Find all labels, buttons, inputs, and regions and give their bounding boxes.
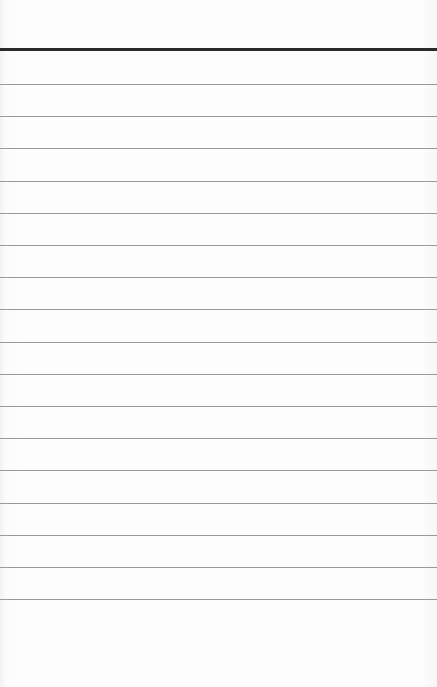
ruled-line (0, 374, 437, 375)
ruled-line (0, 535, 437, 536)
ruled-line (0, 406, 437, 407)
ruled-line (0, 116, 437, 117)
ruled-line (0, 470, 437, 471)
ruled-line (0, 309, 437, 310)
ruled-line (0, 438, 437, 439)
ruled-line (0, 503, 437, 504)
ruled-line (0, 213, 437, 214)
header-rule (0, 48, 437, 51)
ruled-line (0, 148, 437, 149)
ruled-line (0, 567, 437, 568)
ruled-line (0, 342, 437, 343)
lined-paper (0, 0, 437, 687)
ruled-line (0, 245, 437, 246)
ruled-line (0, 599, 437, 600)
ruled-line (0, 277, 437, 278)
ruled-line (0, 181, 437, 182)
ruled-line (0, 84, 437, 85)
